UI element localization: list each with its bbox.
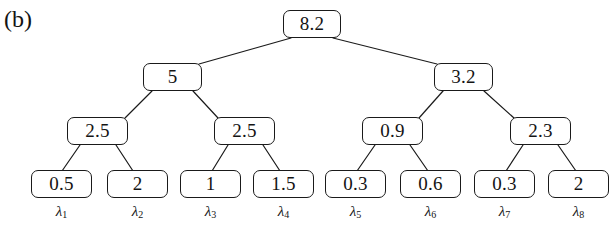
lambda-subscript: 1: [62, 209, 67, 220]
tree-node-value: 0.9: [380, 121, 404, 140]
tree-node-value: 2.5: [232, 121, 256, 140]
tree-leaf-value: 0.6: [418, 174, 442, 193]
tree-node-level3-1: 2.5: [214, 117, 275, 145]
tree-leaf-value: 1: [206, 174, 216, 193]
tree-leaf-value: 0.3: [492, 174, 516, 193]
lambda-subscript: 3: [211, 209, 216, 220]
tree-leaf-6: 0.3: [474, 170, 535, 198]
lambda-subscript: 2: [138, 209, 143, 220]
tree-leaf-value: 0.3: [343, 174, 367, 193]
lambda-subscript: 8: [579, 209, 584, 220]
leaf-axis-label-1: λ2: [107, 203, 168, 220]
lambda-subscript: 7: [505, 209, 510, 220]
leaf-axis-label-3: λ4: [253, 203, 314, 220]
edge-5-to-2.5b: [193, 91, 218, 118]
tree-leaf-0: 0.5: [31, 170, 92, 198]
leaf-axis-label-2: λ3: [180, 203, 241, 220]
tree-node-level2-0: 5: [143, 63, 202, 91]
tree-node-level2-1: 3.2: [434, 63, 493, 91]
tree-node-value: 5: [168, 67, 178, 86]
tree-leaf-2: 1: [180, 170, 241, 198]
edge-root-to-3.2: [333, 38, 437, 64]
leaf-axis-label-5: λ6: [400, 203, 461, 220]
tree-leaf-3: 1.5: [253, 170, 314, 198]
edge-root-to-5: [199, 38, 291, 64]
tree-node-value: 2.3: [528, 121, 552, 140]
tree-leaf-value: 2: [133, 174, 143, 193]
edge-2.3-to-2: [558, 145, 576, 171]
tree-node-level3-2: 0.9: [362, 117, 423, 145]
tree-leaf-4: 0.3: [325, 170, 386, 198]
leaf-axis-label-7: λ8: [548, 203, 609, 220]
tree-node-value: 8.2: [300, 14, 324, 33]
tree-node-level3-3: 2.3: [510, 117, 571, 145]
tree-node-level3-0: 2.5: [67, 117, 128, 145]
tree-leaf-7: 2: [548, 170, 609, 198]
tree-leaf-value: 2: [574, 174, 584, 193]
leaf-axis-label-0: λ1: [31, 203, 92, 220]
tree-node-root: 8.2: [283, 10, 341, 38]
tree-leaf-value: 0.5: [49, 174, 73, 193]
leaf-axis-label-4: λ5: [325, 203, 386, 220]
tree-figure: (b) 8.2: [0, 0, 615, 236]
edge-3.2-to-0.9: [419, 91, 443, 118]
panel-label: (b): [4, 6, 32, 33]
edge-2.5b-to-1.5: [263, 145, 280, 171]
edge-5-to-2.5a: [125, 91, 152, 118]
tree-leaf-5: 0.6: [400, 170, 461, 198]
edge-2.5a-to-0.5: [62, 145, 80, 171]
tree-leaf-1: 2: [107, 170, 168, 198]
edge-2.3-to-0.3: [506, 145, 523, 171]
lambda-subscript: 5: [356, 209, 361, 220]
lambda-subscript: 6: [431, 209, 436, 220]
tree-node-value: 3.2: [451, 67, 475, 86]
edge-2.5a-to-2: [116, 145, 133, 171]
edge-3.2-to-2.3: [484, 91, 514, 118]
edge-0.9-to-0.3: [357, 145, 375, 171]
edge-0.9-to-0.6: [410, 145, 428, 171]
leaf-axis-label-6: λ7: [474, 203, 535, 220]
edge-2.5b-to-1: [212, 145, 228, 171]
tree-leaf-value: 1.5: [271, 174, 295, 193]
tree-node-value: 2.5: [85, 121, 109, 140]
lambda-subscript: 4: [284, 209, 289, 220]
